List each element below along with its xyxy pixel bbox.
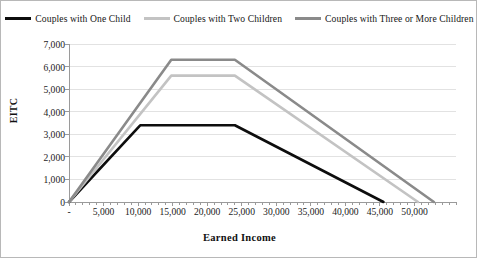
legend-item[interactable]: Couples with Two Children xyxy=(144,13,283,24)
chart-legend: Couples with One ChildCouples with Two C… xyxy=(1,9,477,27)
y-tick-label: 5,000 xyxy=(13,84,65,95)
x-tick-label: 50,000 xyxy=(401,206,427,217)
x-tick-label: 45,000 xyxy=(367,206,393,217)
y-tick-label: 1,000 xyxy=(13,174,65,185)
x-tick-label: 40,000 xyxy=(332,206,358,217)
x-tick-label: 5,000 xyxy=(93,206,115,217)
legend-label: Couples with Three or More Children xyxy=(325,13,474,24)
x-tick-label: 25,000 xyxy=(229,206,255,217)
legend-swatch-icon xyxy=(144,17,170,20)
x-axis-title: Earned Income xyxy=(1,232,477,243)
y-tick-label: 4,000 xyxy=(13,106,65,117)
chart-container: Couples with One ChildCouples with Two C… xyxy=(0,0,477,258)
x-tick-label: 30,000 xyxy=(263,206,289,217)
legend-label: Couples with Two Children xyxy=(174,13,283,24)
legend-swatch-icon xyxy=(295,17,321,20)
legend-item[interactable]: Couples with One Child xyxy=(5,13,130,24)
y-tick-label: 2,000 xyxy=(13,151,65,162)
y-tick-label: 7,000 xyxy=(13,39,65,50)
x-tick-label: 35,000 xyxy=(298,206,324,217)
y-axis-tick-labels: 01,0002,0003,0004,0005,0006,0007,000 xyxy=(9,44,65,202)
series-line-1 xyxy=(69,76,418,202)
chart-svg xyxy=(69,44,456,202)
legend-swatch-icon xyxy=(5,17,31,20)
series-line-2 xyxy=(69,60,434,202)
legend-item[interactable]: Couples with Three or More Children xyxy=(295,13,474,24)
legend-label: Couples with One Child xyxy=(35,13,130,24)
x-axis-tick-labels: -5,00010,00015,00020,00025,00030,00035,0… xyxy=(1,206,477,220)
x-tick-label: - xyxy=(67,206,70,217)
x-tick-label: 10,000 xyxy=(125,206,151,217)
y-tick-label: 3,000 xyxy=(13,129,65,140)
plot-area xyxy=(69,44,456,202)
y-tick-label: 6,000 xyxy=(13,61,65,72)
x-tick-label: 20,000 xyxy=(194,206,220,217)
x-tick-label: 15,000 xyxy=(159,206,185,217)
